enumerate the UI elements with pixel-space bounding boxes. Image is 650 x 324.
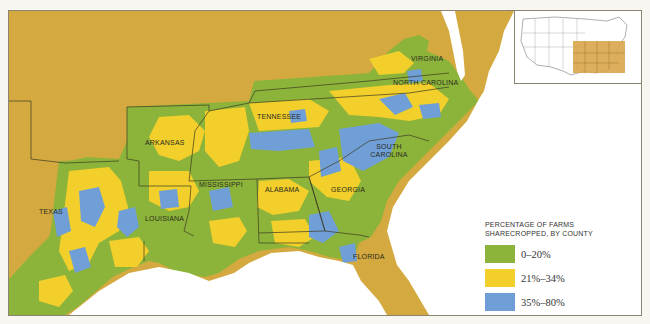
legend-item-mid: 21%–34%: [485, 269, 565, 287]
state-label-texas: TEXAS: [39, 208, 63, 216]
state-label-virginia: VIRGINIA: [411, 55, 443, 63]
state-label-louisiana: LOUISIANA: [145, 215, 184, 223]
legend-swatch-mid: [485, 269, 515, 287]
us-outline-icon: [515, 11, 641, 83]
map-frame: VIRGINIA NORTH CAROLINA TENNESSEE ARKANS…: [8, 10, 642, 316]
inset-locator-map: [514, 11, 641, 84]
legend-title: PERCENTAGE OF FARMS SHARECROPPED, BY COU…: [485, 220, 593, 238]
legend-swatch-low: [485, 245, 515, 263]
legend-item-high: 35%–80%: [485, 293, 565, 311]
state-label-alabama: ALABAMA: [265, 186, 299, 194]
legend: PERCENTAGE OF FARMS SHARECROPPED, BY COU…: [469, 207, 641, 315]
state-label-florida: FLORIDA: [353, 253, 385, 261]
state-label-tennessee: TENNESSEE: [257, 113, 301, 121]
legend-swatch-high: [485, 293, 515, 311]
state-label-north-carolina: NORTH CAROLINA: [393, 79, 458, 87]
state-label-arkansas: ARKANSAS: [145, 139, 185, 147]
highlighted-south-region: [573, 41, 625, 73]
state-label-mississippi: MISSISSIPPI: [199, 181, 243, 189]
state-label-south-carolina: SOUTH CAROLINA: [369, 143, 409, 159]
legend-item-low: 0–20%: [485, 245, 551, 263]
state-label-georgia: GEORGIA: [331, 186, 365, 194]
